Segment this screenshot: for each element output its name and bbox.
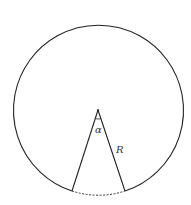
radius-label: R [115, 144, 124, 155]
center-point [97, 109, 99, 111]
circle-arc-dashed [72, 191, 125, 195]
radius-line-left [72, 110, 98, 191]
circle-sector-diagram: α R [0, 0, 191, 205]
circle-arc-solid [13, 25, 183, 191]
angle-label: α [95, 124, 102, 135]
